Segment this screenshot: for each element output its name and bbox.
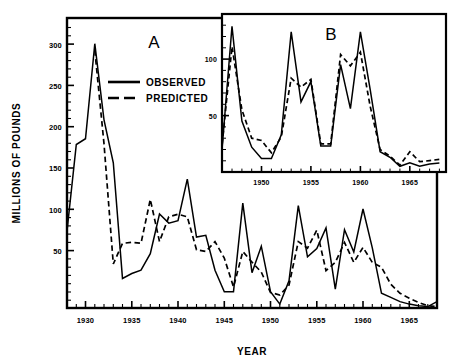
inset-y-tick-50: 50 (209, 113, 217, 120)
y-axis-label: MILLIONS OF POUNDS (11, 103, 22, 224)
x-tick-1950: 1950 (262, 316, 280, 325)
inset-x-tick-1960: 1960 (352, 179, 368, 186)
inset-y-tick-100: 100 (205, 56, 217, 63)
y-tick-200: 200 (49, 123, 62, 132)
y-tick-150: 150 (49, 164, 62, 173)
panel-b-label: B (325, 25, 336, 44)
x-axis-label: YEAR (237, 346, 267, 357)
panel-a-label: A (148, 33, 160, 52)
x-tick-1930: 1930 (77, 316, 95, 325)
x-tick-1965: 1965 (401, 316, 419, 325)
chart-svg: A MILLIONS OF POUNDS YEAR (0, 0, 455, 361)
inset-x-tick-1955: 1955 (303, 179, 319, 186)
inset-x-tick-1965: 1965 (402, 179, 418, 186)
figure-container: A MILLIONS OF POUNDS YEAR (0, 0, 455, 361)
legend-observed-label: OBSERVED (146, 77, 206, 88)
x-tick-1945: 1945 (216, 316, 234, 325)
inset-x-tick-1950: 1950 (253, 179, 269, 186)
x-tick-1935: 1935 (123, 316, 141, 325)
y-tick-100: 100 (49, 206, 62, 215)
x-tick-1940: 1940 (169, 316, 187, 325)
x-tick-1960: 1960 (354, 316, 372, 325)
y-tick-50: 50 (53, 247, 62, 256)
y-tick-300: 300 (49, 41, 62, 50)
x-tick-1955: 1955 (308, 316, 326, 325)
legend-predicted-label: PREDICTED (146, 93, 208, 104)
y-tick-250: 250 (49, 82, 62, 91)
